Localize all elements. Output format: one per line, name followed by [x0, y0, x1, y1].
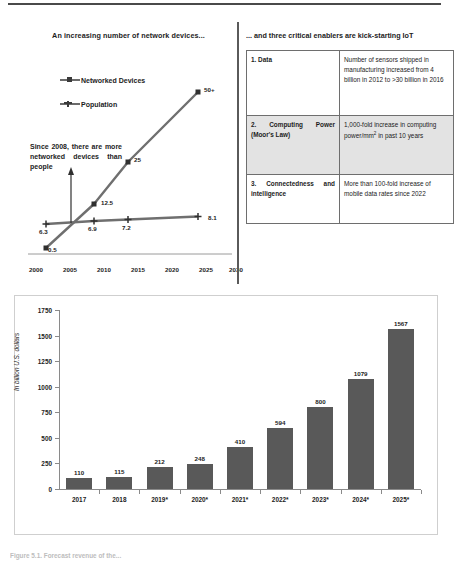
- enabler-value-computing-power: 1,000-fold increase in computing power/m…: [340, 116, 454, 175]
- y-tick-label-750: 750: [41, 409, 52, 416]
- bar-column: 110: [59, 310, 99, 489]
- bar-column: 212: [139, 310, 179, 489]
- enabler-value-post: in past 10 years: [376, 132, 423, 139]
- enablers-table-title: ... and three critical enablers are kick…: [246, 32, 441, 41]
- x-tick-mark: [381, 490, 382, 494]
- bar-chart-y-axis-label: In billion U.S. dollars: [13, 333, 20, 391]
- point-label-devices-0-5: 0.5: [48, 246, 57, 253]
- x-label-2021: 2021*: [220, 496, 260, 503]
- x-label-2019: 2019*: [139, 496, 179, 503]
- x-tick-2015: 2015: [131, 266, 145, 273]
- bar-value-label: 1567: [394, 320, 408, 327]
- bar-column: 115: [99, 310, 139, 489]
- bar-2021: 410: [227, 447, 253, 489]
- line-chart-svg: [22, 68, 234, 264]
- upper-panel: An increasing number of network devices.…: [8, 12, 441, 284]
- point-label-devices-50plus: 50+: [204, 86, 215, 93]
- enabler-key-connectedness: 3. Connectedness and intelligence: [247, 175, 340, 224]
- x-tick-mark: [99, 490, 100, 494]
- x-tick-mark: [421, 490, 422, 494]
- x-axis-labels: 201720182019*2020*2021*2022*2023*2024*20…: [59, 496, 421, 503]
- y-tick-label-250: 250: [41, 460, 52, 467]
- line-chart: An increasing number of network devices.…: [8, 12, 236, 284]
- line-chart-x-axis: 2000 2005 2010 2015 2020 2025 2030: [22, 266, 236, 278]
- table-row: 2. Computing Power (Moor's Law) 1,000-fo…: [247, 116, 454, 175]
- bar-2023: 800: [307, 407, 333, 489]
- bar-value-label: 110: [74, 469, 84, 476]
- enablers-table-panel: ... and three critical enablers are kick…: [246, 12, 441, 284]
- bar-series: 11011521224841059480010791567: [59, 310, 421, 489]
- point-label-devices-12-5: 12.5: [101, 199, 113, 206]
- y-tick-label-1000: 1000: [38, 383, 52, 390]
- bar-chart-plot-area: 02505007501000125015001750 1101152122484…: [59, 310, 421, 490]
- y-tick-label-0: 0: [48, 486, 52, 493]
- bar-value-label: 212: [154, 458, 164, 465]
- bar-2022: 594: [267, 428, 293, 489]
- panel-divider: [237, 22, 239, 284]
- x-label-2023: 2023*: [300, 496, 340, 503]
- x-tick-mark: [341, 490, 342, 494]
- x-tick-2000: 2000: [29, 266, 43, 273]
- enabler-value-data: Number of sensors shipped in manufacturi…: [340, 51, 454, 116]
- x-tick-mark: [300, 490, 301, 494]
- bar-column: 248: [180, 310, 220, 489]
- line-chart-plot-area: 50+ 25 12.5 0.5 6.3 6.9 7.2 8.1: [22, 68, 234, 264]
- x-tick-2020: 2020: [165, 266, 179, 273]
- bar-column: 800: [300, 310, 340, 489]
- x-tick-2005: 2005: [63, 266, 77, 273]
- point-label-population-8-1: 8.1: [208, 214, 217, 221]
- x-tick-mark: [139, 490, 140, 494]
- top-divider-rule: [8, 3, 441, 5]
- y-tick-label-500: 500: [41, 434, 52, 441]
- bar-column: 594: [260, 310, 300, 489]
- x-tick-mark: [260, 490, 261, 494]
- x-tick-mark: [180, 490, 181, 494]
- bar-value-label: 115: [114, 468, 124, 475]
- table-row: 1. Data Number of sensors shipped in man…: [247, 51, 454, 116]
- enabler-value-connectedness: More than 100-fold increase of mobile da…: [340, 175, 454, 224]
- x-tick-2010: 2010: [97, 266, 111, 273]
- bar-2017: 110: [66, 478, 92, 489]
- point-label-population-6-9: 6.9: [88, 225, 97, 232]
- x-label-2020: 2020*: [180, 496, 220, 503]
- point-label-devices-25: 25: [134, 156, 141, 163]
- x-tick-2030: 2030: [229, 266, 243, 273]
- x-label-2018: 2018: [99, 496, 139, 503]
- bar-value-label: 800: [315, 398, 325, 405]
- bar-2024: 1079: [348, 379, 374, 489]
- table-row: 3. Connectedness and intelligence More t…: [247, 175, 454, 224]
- bar-value-label: 1079: [354, 370, 368, 377]
- bar-value-label: 248: [195, 455, 205, 462]
- y-tick-label-1250: 1250: [38, 358, 52, 365]
- point-label-population-6-3: 6.3: [39, 228, 48, 235]
- line-chart-title: An increasing number of network devices.…: [26, 32, 231, 41]
- bar-column: 410: [220, 310, 260, 489]
- bar-chart: In billion U.S. dollars 0250500750100012…: [14, 295, 438, 535]
- x-label-2017: 2017: [59, 496, 99, 503]
- y-tick-label-1500: 1500: [38, 332, 52, 339]
- bar-column: 1567: [381, 310, 421, 489]
- bar-2025: 1567: [388, 329, 414, 489]
- enablers-table: 1. Data Number of sensors shipped in man…: [246, 50, 454, 224]
- enabler-key-data: 1. Data: [247, 51, 340, 116]
- x-tick-2025: 2025: [199, 266, 213, 273]
- bar-value-label: 410: [235, 438, 245, 445]
- bar-column: 1079: [341, 310, 381, 489]
- bar-2020: 248: [187, 464, 213, 489]
- x-label-2025: 2025*: [381, 496, 421, 503]
- enabler-key-computing-power: 2. Computing Power (Moor's Law): [247, 116, 340, 175]
- figure-caption: Figure 5.1. Forecast revenue of the...: [10, 552, 440, 562]
- bar-value-label: 594: [275, 419, 285, 426]
- x-label-2022: 2022*: [260, 496, 300, 503]
- x-label-2024: 2024*: [341, 496, 381, 503]
- y-tick-label-1750: 1750: [38, 307, 52, 314]
- bar-2018: 115: [106, 477, 132, 489]
- point-label-population-7-2: 7.2: [122, 224, 131, 231]
- bar-2019: 212: [147, 467, 173, 489]
- x-tick-mark: [220, 490, 221, 494]
